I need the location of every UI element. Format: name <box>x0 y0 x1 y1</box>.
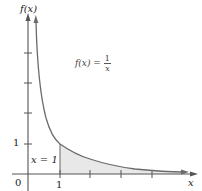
curve-top-arrow-icon <box>34 15 39 23</box>
formula-lhs: f(x) = <box>75 59 101 68</box>
y-tick-label-1: 1 <box>13 138 19 148</box>
curve <box>36 22 183 172</box>
x-axis-arrow-icon <box>190 172 198 177</box>
x-axis-label: x <box>188 178 194 188</box>
formula-numerator: 1 <box>104 54 111 64</box>
origin-label: 0 <box>15 178 21 188</box>
function-graph: f(x) x 0 1 1 x = 1 f(x) = 1 x <box>0 0 202 191</box>
function-formula: f(x) = 1 x <box>75 54 111 73</box>
x-tick-label-1: 1 <box>56 180 62 190</box>
boundary-label: x = 1 <box>31 155 58 165</box>
y-axis-arrow-icon <box>26 13 31 21</box>
formula-fraction: 1 x <box>104 54 111 73</box>
y-axis-label: f(x) <box>20 4 37 14</box>
shaded-area <box>60 144 186 174</box>
formula-denominator: x <box>105 64 110 73</box>
